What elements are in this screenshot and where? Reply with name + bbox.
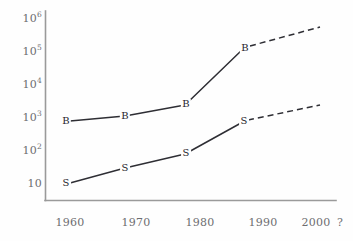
- y-tick-label-1e4: 104: [16, 78, 42, 91]
- series-s-marker-1960: S: [61, 178, 71, 188]
- series-s-marker-1980: S: [181, 148, 191, 158]
- y-tick-label-1e3: 103: [16, 111, 42, 124]
- series-b-marker-1960: B: [61, 116, 71, 126]
- x-tick-label-1990: 1990: [248, 216, 277, 229]
- series-s-marker-1970: S: [120, 163, 130, 173]
- series-b-marker-1970: B: [120, 111, 130, 121]
- series-b-solid: [70, 49, 243, 121]
- x-tick-label-1970: 1970: [121, 216, 150, 229]
- chart-plot-area: [0, 0, 353, 241]
- y-tick-exp-1e3: 3: [37, 109, 42, 118]
- y-tick-label-1e2: 102: [16, 144, 42, 157]
- y-tick-exp-1e4: 4: [37, 76, 42, 85]
- x-tick-label-1980: 1980: [185, 216, 214, 229]
- series-b-marker-1980: B: [181, 99, 191, 109]
- y-tick-exp-1e5: 5: [37, 43, 42, 52]
- chart-container: 106 105 104 103 102 10 1960 1970 1980 19…: [0, 0, 353, 241]
- y-tick-label-10: 10: [16, 177, 42, 190]
- y-tick-label-1e6: 106: [16, 12, 42, 25]
- series-s-projection: [248, 105, 320, 120]
- x-tick-label-1960: 1960: [55, 216, 84, 229]
- x-axis-question-mark-annotation: ?: [337, 216, 343, 229]
- series-b-marker-1990: B: [240, 43, 250, 53]
- series-s-solid: [70, 123, 241, 183]
- series-b-projection: [250, 27, 320, 46]
- series-s-marker-1990: S: [239, 116, 249, 126]
- x-tick-label-2000: 2000: [301, 216, 330, 229]
- y-tick-label-1e5: 105: [16, 45, 42, 58]
- y-tick-exp-1e6: 6: [37, 10, 42, 19]
- y-tick-exp-1e2: 2: [37, 142, 42, 151]
